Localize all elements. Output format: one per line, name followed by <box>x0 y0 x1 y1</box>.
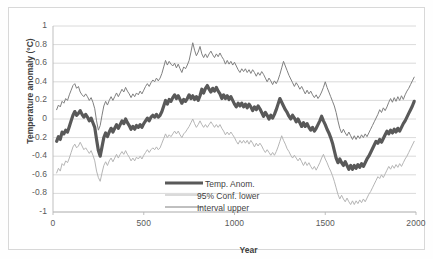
x-axis-title: Year <box>61 245 433 255</box>
x-tick-label: 0 <box>33 218 73 228</box>
x-tick-label: 1000 <box>215 218 255 228</box>
legend-label-conf-lower: 95% Conf. lower <box>197 191 259 201</box>
chart-figure: -1-0.8-0.6-0.4-0.200.20.40.60.81 0500100… <box>0 0 433 259</box>
x-tick-label: 2000 <box>396 218 433 228</box>
legend-label-temp-anom: Temp. Anom. <box>205 179 255 189</box>
y-tick-label: -0.6 <box>9 169 47 179</box>
y-tick-label: 1 <box>9 20 47 30</box>
x-tick-label: 1500 <box>305 218 345 228</box>
y-tick-label: -0.4 <box>9 150 47 160</box>
y-tick-label: -1 <box>9 206 47 216</box>
legend-label-interval-upper: Interval upper <box>197 203 249 213</box>
y-tick-label: -0.8 <box>9 187 47 197</box>
chart-frame: -1-0.8-0.6-0.4-0.200.20.40.60.81 0500100… <box>8 7 425 250</box>
y-axis-title: Temperature anomaly (°C) <box>25 32 35 150</box>
x-tick-label: 500 <box>124 218 164 228</box>
